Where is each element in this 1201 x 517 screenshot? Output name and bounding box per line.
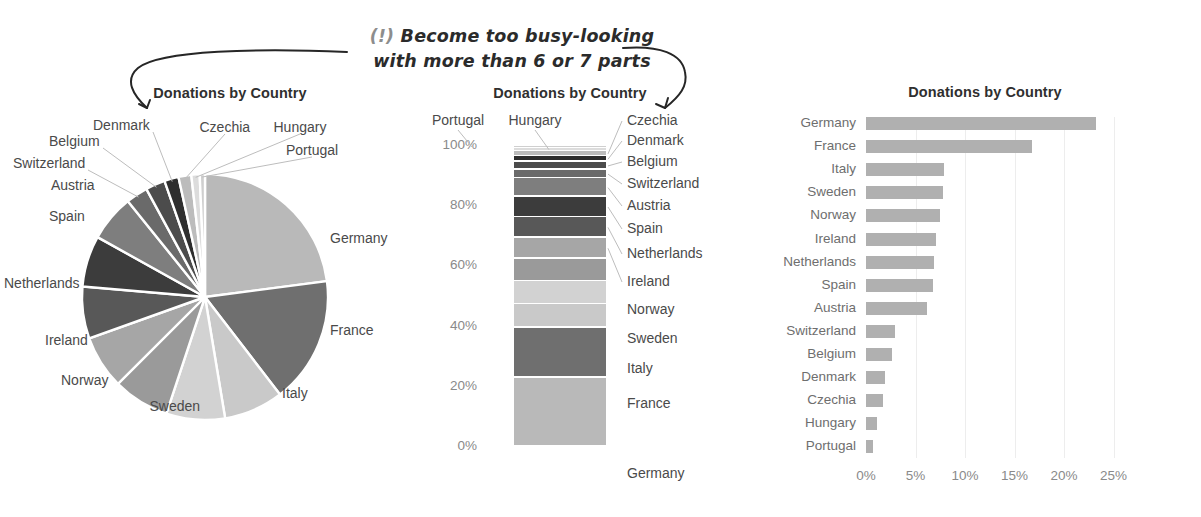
pie-leader-line xyxy=(185,134,225,179)
pie-slice-label: Hungary xyxy=(274,119,327,135)
bar-chart-row: Hungary xyxy=(760,417,1201,430)
bar-chart-row: Spain xyxy=(760,279,1201,292)
bar xyxy=(866,371,885,384)
pie-slice-label: Netherlands xyxy=(4,275,80,291)
pie-slice-label: Spain xyxy=(49,208,85,224)
bar-category-label: Portugal xyxy=(752,438,856,453)
bar-x-tick: 5% xyxy=(894,468,938,483)
bar-chart-row: Belgium xyxy=(760,348,1201,361)
pie-slice-label: Belgium xyxy=(49,133,100,149)
annotation-callout: (!) Become too busy-looking with more th… xyxy=(352,24,672,74)
stacked-bar-chart: Donations by Country 100%80%60%40%20%0% … xyxy=(415,85,755,485)
bar xyxy=(866,302,927,315)
stack-leader-line xyxy=(535,130,549,150)
stack-segment-label: Netherlands xyxy=(627,245,703,261)
bar-chart-row: Ireland xyxy=(760,233,1201,246)
stack-segment-label: Spain xyxy=(627,220,663,236)
bar-chart-row: Norway xyxy=(760,209,1201,222)
bar-chart-title: Donations by Country xyxy=(820,84,1150,100)
stack-leader-line xyxy=(608,227,622,254)
bar-chart-row: Sweden xyxy=(760,186,1201,199)
stack-segment-label: Ireland xyxy=(627,273,670,289)
stack-leader-line xyxy=(608,248,622,282)
bar-chart-row: France xyxy=(760,140,1201,153)
bar-x-tick: 0% xyxy=(844,468,888,483)
bar-chart-row: Italy xyxy=(760,163,1201,176)
bar-category-label: Spain xyxy=(752,277,856,292)
bar-chart-row: Portugal xyxy=(760,440,1201,453)
pie-leader-line xyxy=(153,132,172,182)
pie-leader-line xyxy=(88,170,139,197)
pie-slice-label: Italy xyxy=(282,385,308,401)
stack-segment-label: Switzerland xyxy=(627,175,699,191)
bar-category-label: Denmark xyxy=(752,369,856,384)
bar xyxy=(866,186,943,199)
bar-chart-row: Austria xyxy=(760,302,1201,315)
stack-segment-label: Hungary xyxy=(509,112,562,128)
pie-slice-label: Austria xyxy=(51,177,95,193)
bar-category-label: Hungary xyxy=(752,415,856,430)
bar xyxy=(866,163,944,176)
bar-chart-row: Germany xyxy=(760,117,1201,130)
stack-segment-label: Czechia xyxy=(627,112,678,128)
pie-chart: Donations by Country GermanyFranceItalyS… xyxy=(0,85,410,485)
bar-x-tick: 20% xyxy=(1042,468,1086,483)
bar-category-label: Sweden xyxy=(752,184,856,199)
pie-slice-label: Switzerland xyxy=(13,155,85,171)
bar xyxy=(866,417,877,430)
pie-slice-label: France xyxy=(330,322,374,338)
stacked-leader-lines xyxy=(415,85,755,485)
bar xyxy=(866,279,933,292)
stack-segment-label: Denmark xyxy=(627,132,684,148)
bar-category-label: Italy xyxy=(752,161,856,176)
pie-slice xyxy=(205,174,327,297)
stack-leader-line xyxy=(608,162,622,166)
stack-segment-label: Sweden xyxy=(627,330,678,346)
bar-chart-row: Denmark xyxy=(760,371,1201,384)
stack-leader-line xyxy=(608,121,622,154)
bar-chart-row: Netherlands xyxy=(760,256,1201,269)
pie-slices xyxy=(82,174,328,420)
stack-leader-line xyxy=(608,207,622,229)
warning-marker: (!) xyxy=(370,26,395,46)
annotation-line-2: with more than 6 or 7 parts xyxy=(352,49,672,74)
bar-category-label: Czechia xyxy=(752,392,856,407)
bar xyxy=(866,348,892,361)
pie-leader-line xyxy=(202,157,312,177)
bar-x-tick: 15% xyxy=(993,468,1037,483)
pie-leader-line xyxy=(196,134,300,177)
stack-segment-label: France xyxy=(627,395,671,411)
stack-segment-label: Norway xyxy=(627,301,674,317)
bar xyxy=(866,256,934,269)
horizontal-bar-chart: Donations by Country GermanyFranceItalyS… xyxy=(760,70,1201,517)
stack-leader-line xyxy=(458,130,472,147)
bar xyxy=(866,209,940,222)
bar xyxy=(866,233,936,246)
pie-slice-label: Ireland xyxy=(45,332,88,348)
bar-chart-row: Czechia xyxy=(760,394,1201,407)
bar xyxy=(866,440,873,453)
pie-slice-label: Norway xyxy=(61,372,108,388)
pie-slice-label: Denmark xyxy=(93,117,150,133)
pie-slice-label: Sweden xyxy=(150,398,201,414)
bar xyxy=(866,140,1032,153)
pie-slice-label: Portugal xyxy=(286,142,338,158)
bar-category-label: Switzerland xyxy=(752,323,856,338)
bar xyxy=(866,394,883,407)
bar-x-tick: 25% xyxy=(1092,468,1136,483)
pie-slice-label: Germany xyxy=(330,230,388,246)
bar-category-label: France xyxy=(752,138,856,153)
bar-chart-row: Switzerland xyxy=(760,325,1201,338)
bar-category-label: Netherlands xyxy=(752,254,856,269)
stack-segment-label: Austria xyxy=(627,197,671,213)
stack-leader-line xyxy=(608,188,622,206)
pie-slice-label: Czechia xyxy=(200,119,251,135)
stack-segment-label: Germany xyxy=(627,465,685,481)
bar xyxy=(866,117,1096,130)
bar xyxy=(866,325,895,338)
figure-canvas: (!) Become too busy-looking with more th… xyxy=(0,0,1201,517)
stack-segment-label: Portugal xyxy=(432,112,484,128)
annotation-line-1: Become too busy-looking xyxy=(401,26,655,46)
bar-x-tick: 10% xyxy=(943,468,987,483)
bar-category-label: Belgium xyxy=(752,346,856,361)
